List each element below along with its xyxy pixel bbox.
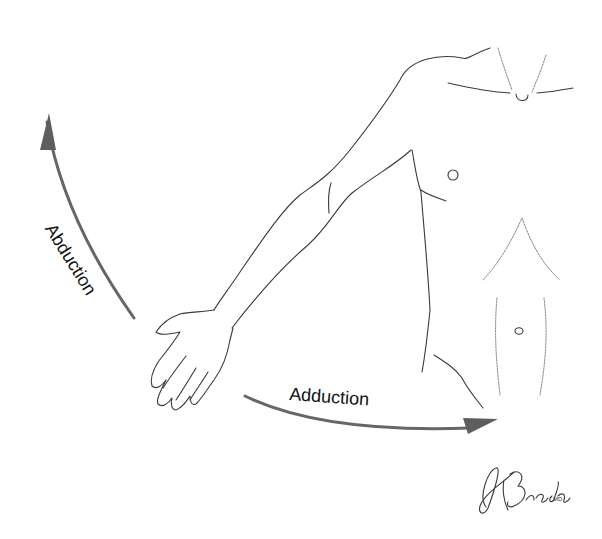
elbow-crease [328,183,331,213]
abdomen-right [540,298,546,395]
arm-inner-contour [232,150,411,328]
diagram-canvas: Abduction Adduction MD [0,0,602,539]
abduction-arrowhead-icon [40,113,56,150]
navel [515,328,523,334]
sternal-notch [516,94,528,101]
arm-outer-contour [214,48,490,310]
torso-side [412,150,430,372]
finger-line-3 [190,372,208,400]
pectoral-fold [421,190,446,201]
adduction-arrowhead-icon [463,418,498,434]
signature [474,462,594,522]
neck-left [498,48,512,90]
hand-outline [151,310,233,410]
right-clavicle [537,88,573,93]
signature-suffix: MD [553,496,562,502]
flank-line [434,355,483,408]
anatomy-drawing [0,0,602,539]
finger-line-1 [163,356,186,388]
left-clavicle [448,83,510,93]
abdomen-left [496,298,500,395]
nipple [448,170,458,180]
neck-right [532,55,546,92]
rib-cage-arch [483,218,560,280]
